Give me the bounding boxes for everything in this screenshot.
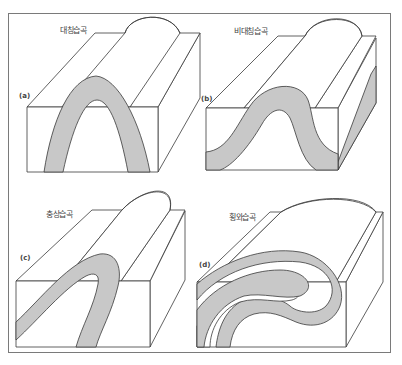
panel-a-symmetric-fold-block bbox=[27, 17, 200, 172]
panel-d-label: 횡와습곡 bbox=[229, 211, 256, 222]
panel-c-label: 충상습곡 bbox=[46, 208, 73, 219]
panel-b-label: 비대칭습곡 bbox=[234, 25, 268, 36]
panel-c-overturned-fold-block bbox=[16, 191, 185, 347]
panel-c-tag: (c) bbox=[20, 254, 31, 262]
panel-d-recumbent-fold-block bbox=[197, 198, 383, 347]
panel-d-tag: (d) bbox=[199, 261, 210, 269]
fold-diagrams bbox=[0, 0, 402, 365]
panel-a-label: 대칭습곡 bbox=[60, 24, 87, 35]
panel-a-tag: (a) bbox=[19, 92, 30, 100]
panel-b-tag: (b) bbox=[201, 95, 212, 103]
panel-b-asymmetric-fold-block bbox=[206, 19, 376, 170]
fold-types-figure: 대칭습곡 (a) 비대칭습곡 (b) 충상습곡 (c) 횡와습곡 (d) bbox=[0, 0, 402, 365]
